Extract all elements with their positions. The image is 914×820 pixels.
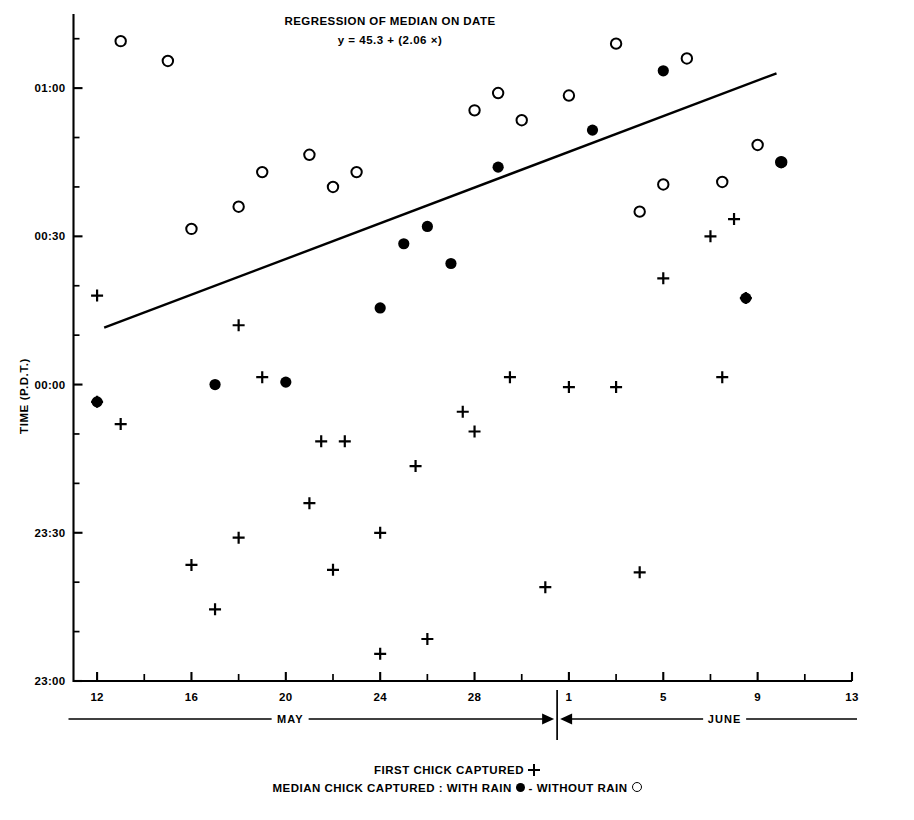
data-point-open-circle: [517, 115, 527, 125]
data-point-plus: [563, 381, 575, 393]
data-point-filled-circle: [422, 221, 433, 232]
data-point-open-circle: [186, 224, 196, 234]
data-point-open-circle: [115, 36, 125, 46]
data-point-filled-circle: [209, 379, 220, 390]
x-axis-tick-label: 12: [77, 691, 117, 703]
x-axis-tick-label: 1: [549, 691, 589, 703]
series-plus: [91, 213, 752, 660]
data-point-open-circle: [469, 105, 479, 115]
series-open-circle: [115, 36, 786, 234]
x-axis-tick-label: 24: [360, 691, 400, 703]
open-circle-marker-icon: [632, 782, 642, 792]
data-point-plus: [610, 381, 622, 393]
y-axis-tick-label: 23:00: [6, 675, 66, 687]
data-point-open-circle: [682, 53, 692, 63]
figure-scatter-plot: REGRESSION OF MEDIAN ON DATE y = 45.3 + …: [0, 0, 914, 820]
x-axis-tick-label: 9: [738, 691, 778, 703]
data-point-open-circle: [257, 167, 267, 177]
x-axis-tick-label: 5: [643, 691, 683, 703]
data-point-filled-circle: [587, 125, 598, 136]
data-point-open-circle: [658, 179, 668, 189]
legend-label-without-rain: WITHOUT RAIN: [537, 782, 628, 794]
data-point-filled-circle: [493, 162, 504, 173]
data-point-open-circle: [564, 90, 574, 100]
data-point-plus: [716, 371, 728, 383]
data-point-open-circle: [304, 150, 314, 160]
legend-label-with-rain: WITH RAIN: [447, 782, 512, 794]
data-point-plus: [374, 527, 386, 539]
june-arrowhead-icon: [560, 714, 572, 725]
data-point-open-circle: [163, 56, 173, 66]
data-point-filled-circle: [280, 376, 291, 387]
data-point-open-circle: [351, 167, 361, 177]
x-axis-tick-label: 28: [455, 691, 495, 703]
data-point-plus: [504, 371, 516, 383]
legend-label-first-chick: FIRST CHICK CAPTURED: [374, 764, 524, 776]
data-point-plus: [315, 435, 327, 447]
data-point-plus: [457, 406, 469, 418]
data-point-open-circle: [717, 177, 727, 187]
data-point-plus: [303, 497, 315, 509]
axis-spines: [74, 14, 853, 681]
data-point-open-circle: [233, 201, 243, 211]
data-point-plus: [421, 633, 433, 645]
y-axis-tick-label: 23:30: [6, 527, 66, 539]
legend-label-median-chick: MEDIAN CHICK CAPTURED :: [272, 782, 443, 794]
data-point-open-circle: [752, 140, 762, 150]
data-point-plus: [410, 460, 422, 472]
y-axis-tick-label: 00:00: [6, 379, 66, 391]
data-point-plus: [256, 371, 268, 383]
data-point-plus: [339, 435, 351, 447]
filled-circle-marker-icon: [516, 783, 525, 792]
legend-row-first-chick: FIRST CHICK CAPTURED: [0, 762, 914, 780]
x-axis-tick-label: 20: [266, 691, 306, 703]
data-point-open-circle: [611, 38, 621, 48]
y-axis-tick-label: 01:00: [6, 82, 66, 94]
data-point-open-circle: [493, 88, 503, 98]
legend-separator: -: [529, 782, 533, 794]
data-point-plus: [539, 581, 551, 593]
data-point-plus: [657, 272, 669, 284]
data-point-filled-circle: [375, 302, 386, 313]
data-point-plus: [209, 603, 221, 615]
data-point-plus: [634, 566, 646, 578]
x-axis-tick-label: 16: [171, 691, 211, 703]
data-point-plus: [185, 559, 197, 571]
data-point-plus: [740, 292, 752, 304]
regression-line: [104, 73, 776, 327]
legend-row-median-chick: MEDIAN CHICK CAPTURED : WITH RAIN - WITH…: [0, 780, 914, 798]
data-point-filled-circle: [776, 157, 787, 168]
x-axis-tick-label: 13: [832, 691, 872, 703]
data-point-plus: [233, 532, 245, 544]
data-point-plus: [91, 290, 103, 302]
y-axis-label: TIME (P.D.T.): [18, 336, 30, 456]
data-point-plus: [469, 425, 481, 437]
month-label: MAY: [272, 713, 309, 725]
data-point-plus: [327, 564, 339, 576]
series-filled-circle: [91, 65, 786, 407]
plus-marker-icon: [528, 764, 540, 776]
data-point-plus: [704, 230, 716, 242]
data-point-filled-circle: [445, 258, 456, 269]
data-point-plus: [91, 396, 103, 408]
data-point-plus: [374, 648, 386, 660]
may-arrowhead-icon: [542, 714, 554, 725]
data-point-open-circle: [328, 182, 338, 192]
data-point-plus: [115, 418, 127, 430]
chart-legend: FIRST CHICK CAPTURED MEDIAN CHICK CAPTUR…: [0, 762, 914, 798]
data-point-filled-circle: [658, 65, 669, 76]
month-label: JUNE: [703, 713, 747, 725]
data-point-plus: [233, 319, 245, 331]
y-axis-tick-label: 00:30: [6, 230, 66, 242]
data-point-filled-circle: [398, 238, 409, 249]
data-point-open-circle: [634, 206, 644, 216]
data-point-plus: [728, 213, 740, 225]
